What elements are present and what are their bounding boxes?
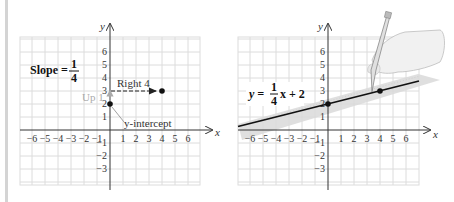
svg-text:y =: y = — [247, 87, 264, 101]
graphs-canvas: −6 −5 −4 −3 −2 −1 1 2 3 4 5 6 1 2 3 4 5 … — [0, 0, 454, 202]
svg-text:−6: −6 — [245, 133, 256, 144]
point-0-2 — [325, 101, 331, 107]
svg-text:−2: −2 — [297, 133, 308, 144]
equation-label: y = 1 4 x + 2 — [246, 80, 305, 108]
svg-text:−2: −2 — [314, 150, 325, 161]
left-x-label: x — [214, 126, 220, 138]
svg-text:−4: −4 — [53, 133, 64, 144]
svg-text:4: 4 — [160, 133, 165, 144]
svg-text:−1: −1 — [96, 137, 107, 148]
svg-text:4: 4 — [320, 72, 325, 83]
svg-text:1: 1 — [71, 57, 77, 71]
right-y-label: y — [317, 20, 323, 32]
svg-text:1: 1 — [102, 111, 107, 122]
svg-text:6: 6 — [186, 133, 191, 144]
svg-text:5: 5 — [391, 133, 396, 144]
point-4-3 — [377, 88, 383, 94]
svg-text:2: 2 — [320, 98, 325, 109]
svg-text:Slope =: Slope = — [30, 63, 68, 77]
right-x-label: x — [432, 128, 438, 140]
svg-text:5: 5 — [173, 133, 178, 144]
svg-text:−3: −3 — [96, 163, 107, 174]
svg-text:4: 4 — [102, 72, 107, 83]
svg-text:1: 1 — [121, 133, 126, 144]
svg-text:−2: −2 — [79, 133, 90, 144]
svg-text:4: 4 — [271, 94, 277, 108]
svg-text:6: 6 — [102, 46, 107, 57]
svg-text:−3: −3 — [314, 163, 325, 174]
svg-text:x + 2: x + 2 — [280, 87, 305, 101]
left-y-label: y — [99, 20, 105, 32]
right-label: Right 4 — [117, 77, 150, 89]
svg-text:−5: −5 — [258, 133, 269, 144]
slope-label: Slope = 1 4 — [30, 57, 79, 85]
svg-text:−1: −1 — [314, 137, 325, 148]
svg-text:1: 1 — [320, 111, 325, 122]
svg-text:3: 3 — [365, 133, 370, 144]
svg-text:−4: −4 — [271, 133, 282, 144]
svg-text:6: 6 — [404, 133, 409, 144]
svg-text:2: 2 — [352, 133, 357, 144]
svg-text:−5: −5 — [40, 133, 51, 144]
svg-text:2: 2 — [134, 133, 139, 144]
svg-text:1: 1 — [339, 133, 344, 144]
svg-text:1: 1 — [271, 80, 277, 94]
left-graph: −6 −5 −4 −3 −2 −1 1 2 3 4 5 6 1 2 3 4 5 … — [20, 20, 220, 190]
right-x-ticks: −6 −5 −4 −3 −2 −1 1 2 3 4 5 6 — [245, 133, 409, 144]
svg-text:−6: −6 — [27, 133, 38, 144]
svg-text:4: 4 — [378, 133, 383, 144]
svg-text:4: 4 — [71, 71, 77, 85]
svg-text:3: 3 — [147, 133, 152, 144]
intercept-pointer — [112, 107, 124, 122]
svg-text:5: 5 — [102, 59, 107, 70]
svg-text:3: 3 — [320, 85, 325, 96]
up-label: Up 1 — [82, 91, 104, 103]
svg-text:6: 6 — [320, 46, 325, 57]
point-0-2 — [107, 101, 113, 107]
left-x-ticks: −6 −5 −4 −3 −2 −1 1 2 3 4 5 6 — [27, 133, 191, 144]
svg-text:−3: −3 — [284, 133, 295, 144]
svg-text:−3: −3 — [66, 133, 77, 144]
svg-text:5: 5 — [320, 59, 325, 70]
y-intercept-label: y-intercept — [124, 117, 172, 129]
right-graph: −6 −5 −4 −3 −2 −1 1 2 3 4 5 6 1 2 3 4 5 … — [238, 11, 445, 190]
point-4-3 — [159, 88, 165, 94]
svg-text:−2: −2 — [96, 150, 107, 161]
